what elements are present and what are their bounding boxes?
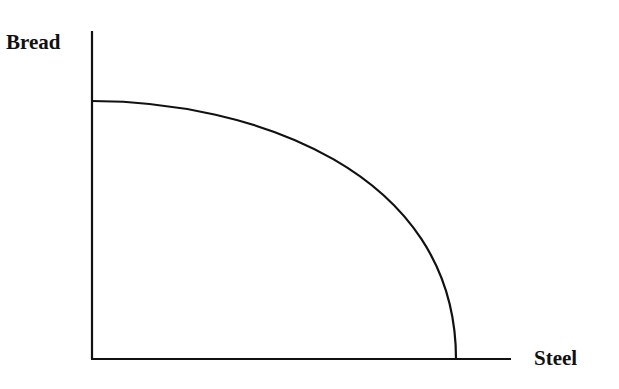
ppf-curve <box>92 101 456 359</box>
ppf-chart-svg <box>0 0 619 389</box>
ppf-diagram: Bread Steel <box>0 0 619 389</box>
y-axis-label: Bread <box>6 32 60 53</box>
x-axis-label: Steel <box>534 348 577 369</box>
